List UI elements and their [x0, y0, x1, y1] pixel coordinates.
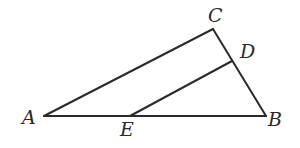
- label-E: E: [119, 118, 134, 140]
- segment-ED: [130, 61, 232, 116]
- label-B: B: [267, 108, 282, 130]
- label-C: C: [208, 4, 223, 26]
- label-D: D: [239, 40, 255, 62]
- triangle-diagram: A B C D E: [0, 0, 300, 148]
- segment-AC: [44, 29, 213, 116]
- label-A: A: [20, 106, 36, 128]
